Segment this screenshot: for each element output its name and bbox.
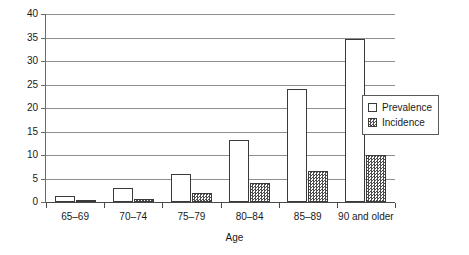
x-axis-title: Age	[0, 232, 469, 243]
y-axis-tick-label: 30	[8, 56, 38, 66]
chart-legend: Prevalence Incidence	[362, 95, 439, 135]
y-axis-tick-label: 5	[8, 174, 38, 184]
y-axis-tick	[41, 14, 46, 15]
bar-prevalence	[229, 140, 249, 203]
bar-group	[46, 14, 104, 202]
legend-label-prevalence: Prevalence	[382, 103, 432, 113]
plot-area	[46, 14, 395, 202]
x-axis-tick	[46, 203, 47, 208]
y-axis-tick-label: 15	[8, 127, 38, 137]
y-axis-tick	[41, 38, 46, 39]
y-axis-tick	[41, 132, 46, 133]
y-axis-tick-label: 35	[8, 33, 38, 43]
y-axis-tick	[41, 85, 46, 86]
y-axis-tick	[41, 179, 46, 180]
bar-group	[279, 14, 337, 202]
y-axis-tick	[41, 61, 46, 62]
x-axis-tick-label: 70–74	[104, 211, 162, 223]
y-axis-tick-label: 40	[8, 9, 38, 19]
open-square-swatch-icon	[368, 103, 377, 112]
bar-prevalence	[171, 174, 191, 202]
bar-group	[221, 14, 279, 202]
y-axis-tick-label: 0	[8, 197, 38, 207]
y-axis-labels: 0510152025303540	[0, 0, 38, 255]
x-axis-tick	[162, 203, 163, 208]
hatched-square-swatch-icon	[368, 118, 377, 127]
bar-prevalence	[113, 188, 133, 202]
bar-incidence	[366, 155, 386, 202]
x-axis-tick-label: 85–89	[279, 211, 337, 223]
bar-prevalence	[287, 89, 307, 202]
bar-chart: 0510152025303540 65–6970–7475–7980–8485–…	[0, 0, 469, 255]
y-axis-tick	[41, 108, 46, 109]
y-axis-tick-label: 10	[8, 150, 38, 160]
legend-item-incidence: Incidence	[368, 115, 432, 130]
bar-group	[162, 14, 220, 202]
bar-incidence	[192, 193, 212, 202]
x-axis-tick-label: 90 and older	[337, 211, 395, 223]
x-axis-tick-label: 80–84	[221, 211, 279, 223]
x-axis-tick	[337, 203, 338, 208]
y-axis-tick	[41, 155, 46, 156]
y-axis-tick	[41, 202, 46, 203]
legend-label-incidence: Incidence	[382, 118, 425, 128]
legend-item-prevalence: Prevalence	[368, 100, 432, 115]
x-axis-tick	[279, 203, 280, 208]
x-axis-tick	[395, 203, 396, 208]
bar-group	[104, 14, 162, 202]
x-axis-tick-label: 65–69	[46, 211, 104, 223]
y-axis-tick-label: 25	[8, 80, 38, 90]
x-axis-tick-label: 75–79	[162, 211, 220, 223]
y-axis-tick-label: 20	[8, 103, 38, 113]
x-axis-tick	[104, 203, 105, 208]
x-axis-tick	[221, 203, 222, 208]
bar-incidence	[308, 171, 328, 202]
bar-incidence	[250, 183, 270, 202]
